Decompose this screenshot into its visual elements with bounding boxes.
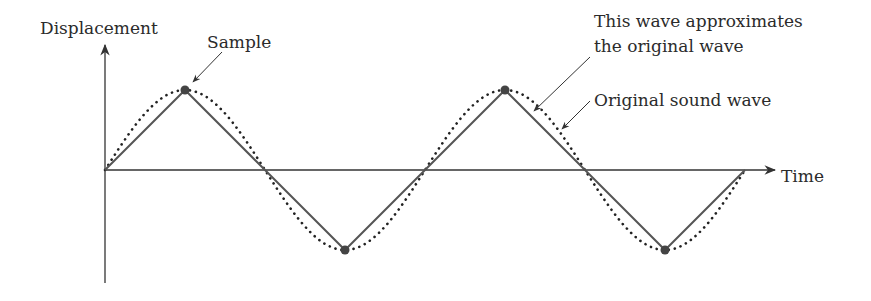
y-axis-label: Displacement <box>40 18 158 38</box>
original-wave-pointer-arrow <box>562 101 590 129</box>
approx-wave-label-line2: the original wave <box>594 36 744 56</box>
sample-pointer-arrow <box>193 52 222 82</box>
sample-point <box>341 246 350 255</box>
diagram-canvas: Displacement Sample This wave approximat… <box>0 0 871 301</box>
sample-point <box>501 86 510 95</box>
original-wave-label: Original sound wave <box>594 90 771 110</box>
sample-point <box>661 246 670 255</box>
x-axis-label: Time <box>781 166 824 186</box>
sample-point <box>181 86 190 95</box>
approx-wave-pointer-arrow <box>534 57 590 111</box>
approx-wave-label-line1: This wave approximates <box>594 11 803 31</box>
sampling-diagram: Displacement Sample This wave approximat… <box>0 0 871 301</box>
sample-label: Sample <box>207 32 271 52</box>
